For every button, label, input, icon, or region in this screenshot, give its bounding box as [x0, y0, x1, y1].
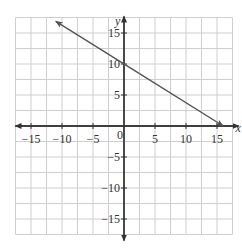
y-tick-label: −5: [107, 150, 120, 164]
x-axis-label: x: [235, 121, 242, 135]
y-tick-label: −15: [101, 212, 120, 226]
x-tick-label: −15: [22, 132, 41, 146]
y-tick-label: 5: [114, 88, 120, 102]
y-tick-label: 10: [108, 57, 120, 71]
x-tick-label: 0: [117, 128, 123, 142]
x-tick-label: −10: [53, 132, 72, 146]
x-tick-label: 15: [211, 132, 223, 146]
x-tick-label: 10: [180, 132, 192, 146]
x-tick-label: −5: [87, 132, 100, 146]
y-tick-label: −10: [101, 181, 120, 195]
x-tick-label: 5: [152, 132, 158, 146]
y-axis-label: y: [114, 14, 121, 28]
coordinate-plane: −15−10−5051015−15−10−551015 x y: [0, 0, 242, 252]
axes: [16, 17, 239, 241]
y-tick-label: 15: [108, 26, 120, 40]
